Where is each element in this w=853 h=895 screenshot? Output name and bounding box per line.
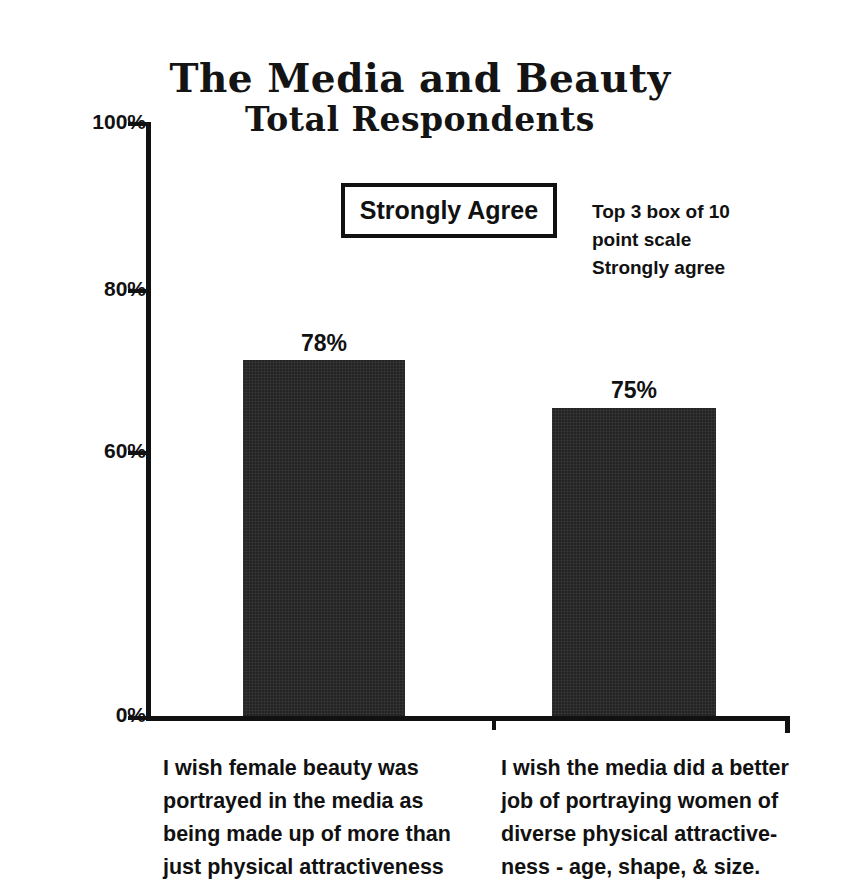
category-2-line-2: job of portraying women of xyxy=(501,785,841,818)
category-2-line-3: diverse physical attractive- xyxy=(501,818,841,851)
y-tick-group-60: 60% xyxy=(0,451,146,455)
x-axis-category-divider-tick xyxy=(492,716,496,730)
chart-subtitle: Total Respondents xyxy=(150,100,690,140)
y-tick-group-100: 100% xyxy=(0,122,146,126)
y-tick-group-0: 0% xyxy=(0,716,146,720)
y-tick-mark-100 xyxy=(128,122,146,126)
category-2-line-4: ness - age, shape, & size. xyxy=(501,851,841,884)
chart-title: The Media and Beauty xyxy=(150,56,690,100)
x-axis-line xyxy=(146,716,790,721)
category-2-line-1: I wish the media did a better xyxy=(501,752,841,785)
y-tick-mark-60 xyxy=(128,451,146,455)
annotation-line-3: Strongly agree xyxy=(592,254,842,282)
annotation-line-2: point scale xyxy=(592,226,842,254)
y-tick-mark-80 xyxy=(128,289,146,293)
y-tick-group-80: 80% xyxy=(0,289,146,293)
category-label-1: I wish female beauty was portrayed in th… xyxy=(163,752,493,884)
chart-canvas: The Media and Beauty Total Respondents S… xyxy=(0,0,853,895)
y-tick-mark-0 xyxy=(128,716,146,720)
legend-box: Strongly Agree xyxy=(341,183,557,238)
bar-2[interactable] xyxy=(552,408,716,717)
category-label-2: I wish the media did a better job of por… xyxy=(501,752,841,884)
category-1-line-4: just physical attractiveness xyxy=(163,851,493,884)
y-tick-label-0: 0% xyxy=(36,704,146,725)
legend-label-strongly-agree: Strongly Agree xyxy=(360,196,538,225)
annotation-line-1: Top 3 box of 10 xyxy=(592,198,842,226)
y-axis-line xyxy=(146,122,151,720)
category-1-line-2: portrayed in the media as xyxy=(163,785,493,818)
bar-value-label-2: 75% xyxy=(552,378,716,402)
bar-1[interactable] xyxy=(243,360,405,717)
bar-value-label-1: 78% xyxy=(243,331,405,355)
chart-annotation: Top 3 box of 10 point scale Strongly agr… xyxy=(592,198,842,282)
category-1-line-1: I wish female beauty was xyxy=(163,752,493,785)
x-axis-end-tick xyxy=(785,716,790,733)
chart-title-block: The Media and Beauty Total Respondents xyxy=(150,56,690,140)
category-1-line-3: being made up of more than xyxy=(163,818,493,851)
